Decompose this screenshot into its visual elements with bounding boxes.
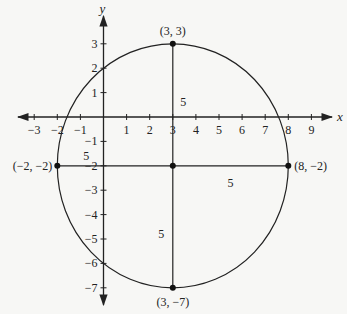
point-label: (3, 3) (160, 24, 186, 38)
x-tick-label: 9 (308, 123, 314, 137)
x-tick-label: 5 (216, 123, 222, 137)
y-tick-label: 1 (92, 86, 98, 100)
point (170, 285, 176, 291)
axes: xy (18, 1, 343, 305)
x-tick-label: 6 (239, 123, 245, 137)
y-tick-label: −5 (85, 232, 98, 246)
y-tick-label: 2 (92, 61, 98, 75)
y-tick-label: −6 (85, 256, 98, 270)
point (170, 41, 176, 47)
x-tick-label: 4 (193, 123, 199, 137)
point-label: (3, −7) (156, 295, 189, 309)
distance-label: 5 (228, 176, 234, 190)
point-label: (8, −2) (294, 159, 327, 173)
x-tick-label: −3 (28, 123, 41, 137)
coordinate-plane: xy −3−2−1123456789321−1−2−3−4−5−6−7 (3, … (0, 0, 347, 314)
x-tick-label: 8 (285, 123, 291, 137)
x-tick-label: 7 (262, 123, 268, 137)
y-tick-label: −4 (85, 208, 98, 222)
distance-label: 5 (180, 95, 186, 109)
y-tick-label: −1 (85, 134, 98, 148)
distance-label: 5 (83, 149, 89, 163)
point-label: (−2, −2) (13, 159, 53, 173)
point (170, 163, 176, 169)
y-tick-label: −7 (85, 281, 98, 295)
y-axis-label: y (98, 1, 106, 16)
x-tick-label: 2 (147, 123, 153, 137)
x-axis-label: x (336, 109, 343, 124)
x-tick-label: 1 (124, 123, 130, 137)
distance-label: 5 (158, 227, 164, 241)
point (285, 163, 291, 169)
point (54, 163, 60, 169)
y-tick-label: 3 (92, 37, 98, 51)
y-tick-label: −3 (85, 183, 98, 197)
